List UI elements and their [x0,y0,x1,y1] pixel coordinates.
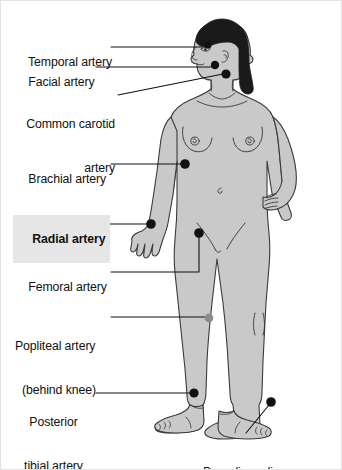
label-brachial-artery: Brachial artery [15,157,106,201]
label-dorsalis-pedis-artery: Dorsalis pedis artery [193,436,289,470]
label-femoral-artery: Femoral artery [15,265,107,309]
left-foot [155,405,204,433]
label-radial-artery: Radial artery [13,215,110,263]
label-posterior-tibial-artery-line2: tibial artery [11,459,96,470]
label-posterior-tibial-artery-line1: Posterior [11,415,96,430]
label-brachial-artery-text: Brachial artery [28,172,106,186]
label-facial-artery-text: Facial artery [28,75,94,89]
body-silhouette [131,19,297,439]
label-dorsalis-pedis-artery-line1: Dorsalis pedis [193,465,289,470]
dot-brachial-artery[interactable] [180,159,190,169]
body-outline [153,23,292,439]
label-radial-artery-text: Radial artery [32,232,105,246]
left-arm [131,117,177,258]
dot-radial-artery[interactable] [146,219,156,229]
label-femoral-artery-text: Femoral artery [28,280,107,294]
dot-femoral-artery[interactable] [194,228,204,238]
dot-posterior-tibial-artery[interactable] [189,388,198,397]
dot-facial-artery[interactable] [211,61,219,69]
label-posterior-tibial-artery: Posterior tibial artery [11,386,96,470]
dot-dorsalis-pedis-artery[interactable] [266,397,276,407]
label-common-carotid-artery-line1: Common carotid [15,117,115,132]
dot-common-carotid-artery[interactable] [221,69,230,78]
label-popliteal-artery-line1: Popliteal artery [15,339,96,354]
dot-popliteal-artery[interactable] [205,314,214,323]
diagram-canvas: Temporal artery Facial artery Common car… [0,0,342,470]
dot-temporal-artery[interactable] [204,41,211,48]
